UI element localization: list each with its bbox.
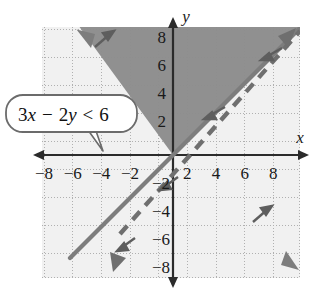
x-tick-2: 2 (183, 164, 192, 183)
callout-coef2: 2 (59, 104, 69, 125)
y-tick-4: 4 (158, 84, 167, 103)
coordinate-plane: −8 −6 −4 −2 2 4 6 8 2 4 6 8 −2 −4 −6 −8 … (0, 0, 323, 293)
y-tick-neg8: −8 (152, 258, 170, 277)
y-axis-label: y (180, 7, 190, 26)
y-tick-6: 6 (158, 56, 167, 75)
x-tick-8: 8 (269, 164, 278, 183)
x-tick-neg6: −6 (64, 164, 82, 183)
figure-container: −8 −6 −4 −2 2 4 6 8 2 4 6 8 −2 −4 −6 −8 … (0, 0, 323, 293)
y-tick-neg6: −6 (152, 230, 170, 249)
callout-minus: − (42, 104, 53, 125)
callout-var1: x (27, 104, 37, 125)
callout-constant: 6 (99, 104, 109, 125)
callout-coef1: 3 (18, 104, 28, 125)
callout-var2: y (66, 104, 77, 125)
x-tick-neg2: −2 (121, 164, 139, 183)
callout-relation: < (83, 104, 94, 125)
x-tick-6: 6 (240, 164, 249, 183)
y-tick-2: 2 (158, 112, 167, 131)
y-tick-neg4: −4 (152, 202, 171, 221)
x-tick-4: 4 (212, 164, 221, 183)
x-axis-label: x (295, 128, 304, 147)
x-tick-neg4: −4 (92, 164, 111, 183)
x-tick-neg8: −8 (35, 164, 53, 183)
y-tick-8: 8 (158, 28, 167, 47)
y-tick-neg2: −2 (152, 174, 170, 193)
